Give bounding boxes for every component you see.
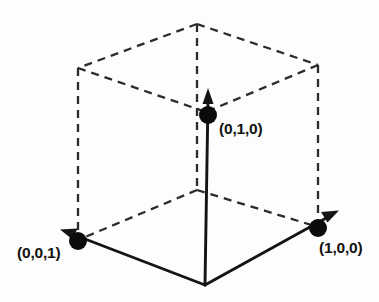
cube-edge-top-back-right bbox=[197, 24, 318, 65]
point-marker-x bbox=[309, 219, 327, 237]
cube-dashed-edges bbox=[78, 24, 318, 240]
diagram-canvas: (0,1,0) (0,0,1) (1,0,0) bbox=[0, 0, 379, 302]
label-z-point: (0,0,1) bbox=[17, 244, 60, 261]
label-y-point: (0,1,0) bbox=[219, 120, 262, 137]
cube-edge-top-right-front bbox=[206, 65, 318, 112]
unit-cube-diagram: (0,1,0) (0,0,1) (1,0,0) bbox=[0, 0, 379, 302]
cube-edge-top-back-left bbox=[78, 24, 197, 68]
z-axis-line bbox=[72, 234, 205, 285]
y-axis-arrowhead-icon bbox=[203, 88, 214, 104]
y-axis-line bbox=[205, 99, 208, 285]
point-marker-z bbox=[69, 232, 87, 250]
cube-edge-bottom-back-left bbox=[78, 190, 197, 240]
point-labels: (0,1,0) (0,0,1) (1,0,0) bbox=[17, 120, 362, 261]
cube-edge-bottom-back-right bbox=[197, 190, 318, 227]
label-x-point: (1,0,0) bbox=[319, 239, 362, 256]
cube-edge-top-left-front bbox=[78, 68, 206, 112]
point-marker-y bbox=[199, 106, 217, 124]
